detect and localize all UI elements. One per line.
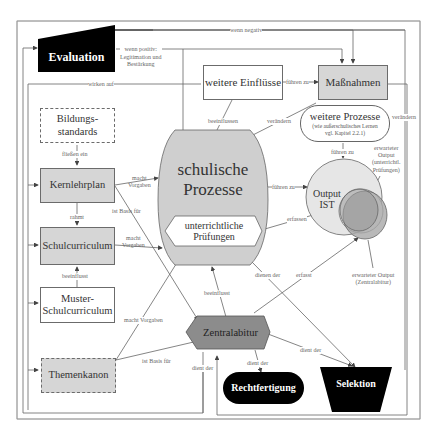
edge-label-beeinflusst-2: beeinflusst — [204, 290, 230, 297]
label-erwarteter-output-pruefungen: erwarteter Output (unterrichtl. Prüfunge… — [372, 145, 401, 174]
edge-label-dienen-der: dienen der — [255, 272, 280, 279]
wenn-positiv-line1: wenn positiv: — [120, 46, 162, 54]
edge-label-rahmt: rahmt — [70, 214, 84, 221]
edge-label-beeinflussen: beeinflussen — [208, 118, 238, 125]
edge-label-macht-vorgaben-3: macht Vorgaben — [124, 317, 163, 324]
macht-vorgaben-2-line2: Vorgaben — [122, 242, 145, 249]
edge-label-veraendern-left: verändern — [267, 118, 291, 125]
figure-caption-cropped — [18, 437, 428, 443]
weitere-einfluesse-node: weitere Einflüsse — [203, 65, 283, 100]
edge-label-fliessen-ein: fließen ein — [62, 151, 88, 158]
school-process-diagram: Evaluation weitere Einflüsse Maßnahmen B… — [0, 0, 439, 443]
zentralabitur-node: Zentralabitur — [197, 318, 264, 348]
erw-output-za-line1: erwarteter Output — [352, 272, 394, 279]
label-erwarteter-output-zentralabitur: erwarteter Output (Zentralabitur) — [352, 272, 394, 286]
schulische-label-line1: schulische — [178, 160, 249, 180]
massnahmen-label: Maßnahmen — [326, 76, 381, 89]
selektion-node: Selektion — [326, 370, 386, 398]
muster-label-line1: Muster- — [61, 293, 94, 305]
edge-label-fuehren-zu-output: führen zu — [272, 184, 295, 191]
edge-label-wenn-negativ: wenn negativ — [230, 27, 262, 34]
wenn-positiv-line3: Bestärkung — [120, 61, 162, 69]
bildungsstandards-label-line1: Bildungs- — [57, 113, 98, 125]
kernlehrplan-node: Kernlehrplan — [40, 168, 115, 203]
rechtfertigung-node: Rechtfertigung — [223, 372, 304, 404]
edge-label-fuehren-zu-massnahmen: führen zu — [286, 79, 309, 86]
muster-schulcurriculum-node: Muster- Schulcurriculum — [40, 287, 115, 323]
macht-vorgaben-1-line2: Vorgaben — [128, 182, 151, 189]
pruefungen-label-line2: Prüfungen — [193, 231, 235, 243]
kernlehrplan-label: Kernlehrplan — [50, 179, 105, 191]
erw-output-pruef-line4: Prüfungen) — [372, 167, 401, 174]
schulische-prozesse-node: schulische Prozesse — [160, 155, 266, 205]
themenkanon-node: Themenkanon — [41, 358, 116, 393]
edge-label-dient-der-left: dient der — [192, 365, 213, 372]
output-label-line1: Output — [313, 188, 341, 200]
edge-label-ist-basis-fuer-2: ist Basis für — [142, 358, 171, 365]
output-ist-node: Output IST — [312, 186, 342, 212]
edge-label-dient-der-rechtfertigung: dient der — [247, 360, 268, 367]
massnahmen-node: Maßnahmen — [318, 65, 388, 100]
evaluation-node: Evaluation — [38, 44, 115, 72]
unterrichtliche-pruefungen-node: unterrichtliche Prüfungen — [168, 217, 260, 245]
edge-label-dient-der-selektion: dient der — [300, 347, 321, 354]
edge-label-erfassen: erfassen — [287, 216, 307, 223]
bildungsstandards-label-line2: standards — [58, 126, 98, 138]
edge-label-fuehren-zu-wp: führen zu — [331, 149, 354, 156]
weitere-einfluesse-label: weitere Einflüsse — [205, 76, 281, 89]
schulcurriculum-label: Schulcurriculum — [43, 240, 113, 252]
macht-vorgaben-2-line1: macht — [122, 235, 145, 242]
edge-label-macht-vorgaben-1: macht Vorgaben — [128, 175, 151, 189]
edge-label-ist-basis-fuer-1: ist Basis für — [112, 208, 141, 215]
zentralabitur-label: Zentralabitur — [203, 327, 258, 339]
bildungsstandards-node: Bildungs- standards — [40, 108, 115, 143]
erw-output-pruef-line1: erwarteter — [372, 145, 401, 152]
weitere-prozesse-label-line3: vgl. Kapitel 2.2.1) — [325, 130, 365, 136]
selektion-label: Selektion — [336, 378, 375, 390]
edge-label-beeinflusst-1: beeinflusst — [62, 273, 88, 280]
edge-label-macht-vorgaben-2: macht Vorgaben — [122, 235, 145, 249]
weitere-prozesse-label-line1: weitere Prozesse — [310, 111, 380, 123]
themenkanon-label: Themenkanon — [48, 369, 108, 381]
erw-output-za-line2: (Zentralabitur) — [352, 279, 394, 286]
edge-label-wenn-positiv: wenn positiv: Legitimation und Bestärkun… — [120, 46, 162, 69]
weitere-prozesse-node: weitere Prozesse (wie außerschulisches L… — [300, 105, 390, 142]
edge-label-wirken-auf: wirken auf — [88, 81, 114, 88]
pruefungen-label-line1: unterrichtliche — [185, 220, 243, 232]
macht-vorgaben-1-line1: macht — [128, 175, 151, 182]
erw-output-pruef-line3: (unterrichtl. — [372, 159, 401, 166]
schulcurriculum-node: Schulcurriculum — [40, 227, 115, 265]
schulische-label-line2: Prozesse — [183, 180, 242, 200]
muster-label-line2: Schulcurriculum — [43, 305, 113, 317]
erw-output-pruef-line2: Output — [372, 152, 401, 159]
wenn-positiv-line2: Legitimation und — [120, 54, 162, 62]
edge-label-veraendern-right: verändern — [392, 114, 416, 121]
output-label-line2: IST — [320, 199, 335, 211]
evaluation-label: Evaluation — [48, 51, 104, 65]
rechtfertigung-label: Rechtfertigung — [231, 382, 295, 394]
edge-label-erfasst: erfasst — [296, 272, 312, 279]
